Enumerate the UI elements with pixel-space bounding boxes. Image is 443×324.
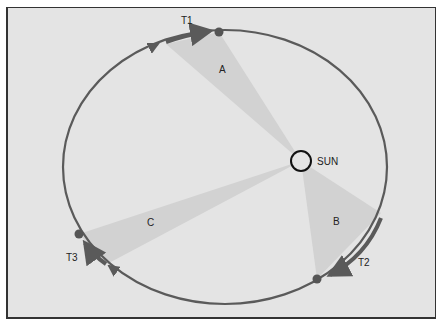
label-t1: T1 <box>181 15 193 26</box>
label-c: C <box>147 217 154 228</box>
label-b: B <box>333 216 340 227</box>
planet-t2 <box>313 275 322 284</box>
label-t2: T2 <box>358 257 370 268</box>
orbit-diagram: SUN T1 T2 T3 A B C <box>0 0 443 324</box>
label-t3: T3 <box>66 252 78 263</box>
label-a: A <box>219 64 226 75</box>
label-sun: SUN <box>317 156 338 167</box>
sector-c <box>79 161 301 264</box>
sun-icon <box>291 151 311 171</box>
planet-t3 <box>75 230 84 239</box>
sector-a <box>166 32 301 161</box>
planet-t1 <box>215 28 224 37</box>
